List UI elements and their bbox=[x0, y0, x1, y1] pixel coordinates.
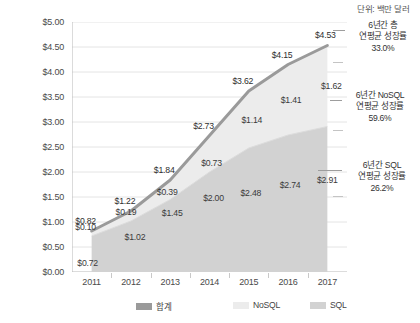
y-axis-tick-label: $4.50 bbox=[42, 42, 64, 52]
legend-swatch bbox=[310, 302, 326, 309]
area-chart-svg bbox=[72, 22, 347, 272]
legend-item-합계[interactable]: 합계 bbox=[136, 300, 172, 312]
x-axis-labels: 2011201220132014201520162017 bbox=[72, 275, 347, 291]
value-label-total: $4.15 bbox=[272, 50, 293, 60]
value-label-nosql: $0.19 bbox=[116, 207, 137, 217]
annotation-leader-tick bbox=[333, 62, 343, 63]
annotation-line: 6년간 NoSQL bbox=[341, 90, 419, 101]
value-label-sql: $1.02 bbox=[125, 232, 146, 242]
y-axis-tick-label: $4.00 bbox=[42, 67, 64, 77]
legend-item-nosql[interactable]: NoSQL bbox=[233, 300, 280, 310]
x-axis-tick bbox=[151, 273, 152, 278]
annotation-line: 33.0% bbox=[344, 43, 420, 54]
x-axis-tick bbox=[308, 273, 309, 278]
annotation-leader-line bbox=[333, 30, 345, 31]
value-label-total: $3.62 bbox=[232, 76, 253, 86]
x-axis-tick-label: 2017 bbox=[318, 277, 337, 287]
plot-area bbox=[72, 22, 347, 272]
legend-label: NoSQL bbox=[253, 300, 280, 310]
unit-note: 단위: 백만 달러 bbox=[357, 2, 410, 14]
value-label-nosql: $0.39 bbox=[157, 187, 178, 197]
value-label-nosql: $1.14 bbox=[241, 115, 262, 125]
x-axis-tick bbox=[268, 273, 269, 278]
value-label-nosql: $0.10 bbox=[75, 222, 96, 232]
x-axis-tick-label: 2013 bbox=[161, 277, 180, 287]
x-axis-tick bbox=[190, 273, 191, 278]
annotation-1: 6년간 총연평균 성장률33.0% bbox=[344, 20, 420, 54]
value-label-sql: $2.91 bbox=[317, 175, 338, 185]
value-label-total: $4.53 bbox=[315, 30, 336, 40]
annotation-leader-tick bbox=[333, 196, 343, 197]
value-label-sql: $2.74 bbox=[280, 180, 301, 190]
legend-label: SQL bbox=[330, 300, 347, 310]
annotation-leader-line bbox=[330, 100, 342, 101]
legend-item-sql[interactable]: SQL bbox=[310, 300, 347, 310]
annotation-3: 6년간 SQL연평균 성장률26.2% bbox=[343, 160, 420, 194]
annotation-leader-tick bbox=[333, 130, 343, 131]
legend-label: 합계 bbox=[156, 300, 172, 312]
annotation-line: 6년간 SQL bbox=[343, 160, 420, 171]
y-axis-tick-label: $2.50 bbox=[42, 142, 64, 152]
y-axis-tick-label: $1.50 bbox=[42, 192, 64, 202]
y-axis-tick-label: $3.00 bbox=[42, 117, 64, 127]
x-axis-tick bbox=[229, 273, 230, 278]
x-axis-tick-label: 2016 bbox=[278, 277, 297, 287]
value-label-sql: $0.72 bbox=[77, 258, 98, 268]
annotation-2: 6년간 NoSQL연평균 성장률59.6% bbox=[341, 90, 419, 124]
legend-swatch bbox=[233, 302, 249, 309]
legend: 합계NoSQLSQL bbox=[0, 300, 420, 314]
x-axis-tick-label: 2014 bbox=[200, 277, 219, 287]
value-label-nosql: $1.62 bbox=[321, 81, 342, 91]
value-label-nosql: $1.41 bbox=[281, 95, 302, 105]
chart-root: 단위: 백만 달러 $0.00$0.50$1.00$1.50$2.00$2.50… bbox=[0, 0, 420, 323]
value-label-sql: $2.00 bbox=[203, 193, 224, 203]
annotation-line: 연평균 성장률 bbox=[344, 31, 420, 42]
annotation-line: 26.2% bbox=[343, 183, 420, 194]
y-axis-labels: $0.00$0.50$1.00$1.50$2.00$2.50$3.00$3.50… bbox=[0, 0, 70, 323]
x-axis-tick-label: 2011 bbox=[82, 277, 101, 287]
y-axis-tick-label: $5.00 bbox=[42, 17, 64, 27]
y-axis-tick-label: $3.50 bbox=[42, 92, 64, 102]
y-axis-tick-label: $2.00 bbox=[42, 167, 64, 177]
annotation-line: 연평균 성장률 bbox=[341, 101, 419, 112]
annotation-line: 59.6% bbox=[341, 113, 419, 124]
value-label-sql: $1.45 bbox=[162, 208, 183, 218]
x-axis-tick bbox=[111, 273, 112, 278]
y-axis-tick-label: $1.00 bbox=[42, 217, 64, 227]
value-label-total: $2.73 bbox=[193, 121, 214, 131]
value-label-total: $1.22 bbox=[115, 196, 136, 206]
value-label-total: $1.84 bbox=[154, 165, 175, 175]
value-label-nosql: $0.73 bbox=[201, 158, 222, 168]
y-axis-tick-label: $0.00 bbox=[42, 267, 64, 277]
annotation-leader-line bbox=[318, 170, 342, 171]
x-axis-tick-label: 2012 bbox=[121, 277, 140, 287]
legend-swatch bbox=[136, 303, 152, 310]
annotation-line: 6년간 총 bbox=[344, 20, 420, 31]
y-axis-tick-label: $0.50 bbox=[42, 242, 64, 252]
value-label-sql: $2.48 bbox=[240, 188, 261, 198]
x-axis-tick-label: 2015 bbox=[239, 277, 258, 287]
annotation-line: 연평균 성장률 bbox=[343, 171, 420, 182]
